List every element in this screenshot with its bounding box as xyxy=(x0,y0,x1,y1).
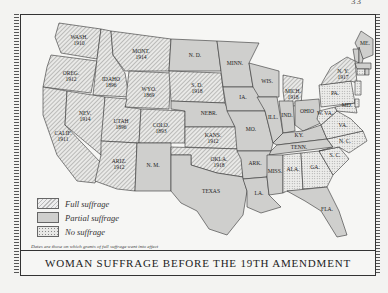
legend-label: No suffrage xyxy=(65,227,105,237)
state-label-pa: PA. xyxy=(331,90,340,96)
state-label-me: ME. xyxy=(360,40,370,46)
state-label-miss: MISS. xyxy=(268,168,283,174)
state-label-wis: WIS. xyxy=(261,78,273,84)
state-year-calif: 1911 xyxy=(58,136,69,142)
state-year-wyo: 1869 xyxy=(143,92,154,98)
state-label-tenn: TENN. xyxy=(291,144,308,150)
state-year-ariz: 1912 xyxy=(113,164,124,170)
state-label-ga: GA. xyxy=(310,164,320,170)
no-suffrage-swatch xyxy=(37,226,59,237)
page-number: 33 xyxy=(351,0,362,6)
legend-note: Dates are those on which grants of full … xyxy=(31,244,158,249)
state-label-ind: IND. xyxy=(281,112,293,118)
state-ala xyxy=(283,153,303,193)
state-label-s-c: S. C. xyxy=(329,152,341,158)
state-label-n-c: N. C. xyxy=(339,138,352,144)
state-year-s-d: 1918 xyxy=(191,88,202,94)
state-label-fla: FLA. xyxy=(321,206,334,212)
full-suffrage-swatch xyxy=(37,198,59,209)
state-year-nev: 1914 xyxy=(79,116,90,122)
map-frame: WASH.1910OREG.1912CALIF.1911IDAHO1896NEV… xyxy=(20,14,376,276)
state-year-utah: 1896 xyxy=(115,124,126,130)
state-label-n-m: N. M. xyxy=(146,162,160,168)
state-label-nebr: NEBR. xyxy=(201,110,218,116)
state-year-kans: 1912 xyxy=(207,138,218,144)
legend-label: Full suffrage xyxy=(65,199,109,209)
state-label-mo: MO. xyxy=(246,126,257,132)
state-label-ill: ILL. xyxy=(268,114,279,120)
state-year-idaho: 1896 xyxy=(105,82,116,88)
state-label-md: MD. xyxy=(342,102,353,108)
state-label-n-d: N. D. xyxy=(189,52,202,58)
state-label-ala: ALA. xyxy=(287,166,300,172)
state-label-ohio: OHIO xyxy=(300,108,314,114)
state-year-mich: 1918 xyxy=(287,94,298,100)
state-del xyxy=(355,99,359,107)
state-year-n-y: 1917 xyxy=(337,74,348,80)
state-year-oreg: 1912 xyxy=(65,76,76,82)
state-conn xyxy=(357,69,365,75)
state-miss xyxy=(267,155,283,195)
state-label-ky: KY. xyxy=(295,132,304,138)
state-label-la: LA. xyxy=(255,190,264,196)
state-n-j xyxy=(355,81,361,95)
state-label-ark: ARK. xyxy=(248,160,262,166)
legend-item-none: No suffrage xyxy=(37,225,119,238)
left-margin-rule xyxy=(14,14,19,273)
state-label-w-va: W. VA. xyxy=(317,110,334,116)
state-label-minn: MINN. xyxy=(227,60,244,66)
map-title: WOMAN SUFFRAGE BEFORE THE 19TH AMENDMENT xyxy=(45,257,351,269)
state-mass xyxy=(355,63,371,69)
state-year-colo: 1893 xyxy=(155,128,166,134)
state-label-texas: TEXAS xyxy=(202,188,220,194)
legend-label: Partial suffrage xyxy=(65,213,119,223)
map-legend: Full suffrage Partial suffrage No suffra… xyxy=(37,197,119,239)
state-year-okla: 1918 xyxy=(213,162,224,168)
partial-suffrage-swatch xyxy=(37,212,59,223)
state-fla xyxy=(287,187,347,237)
state-year-wash: 1910 xyxy=(73,40,84,46)
state-label-ia: IA. xyxy=(239,94,247,100)
state-year-mont: 1914 xyxy=(135,54,146,60)
state-label-va: VA. xyxy=(339,122,348,128)
legend-item-partial: Partial suffrage xyxy=(37,211,119,224)
state-r-i xyxy=(365,69,369,75)
legend-item-full: Full suffrage xyxy=(37,197,119,210)
caption-bar: WOMAN SUFFRAGE BEFORE THE 19TH AMENDMENT xyxy=(21,250,375,275)
